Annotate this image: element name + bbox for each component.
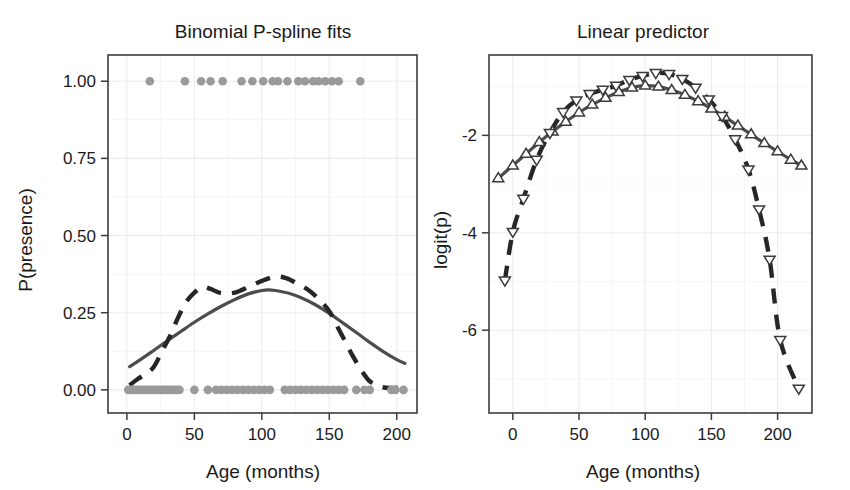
chart-panel-linear-predictor: Linear predictor -2-4-6 050100150200 Age… <box>425 0 850 490</box>
right-marker-layer <box>493 70 807 395</box>
observed-data-point <box>274 77 283 86</box>
observed-data-point <box>204 386 213 395</box>
x-tick-label: 200 <box>383 425 411 444</box>
observed-data-point <box>266 386 275 395</box>
observed-data-point <box>399 386 408 395</box>
marker-triangle-down <box>754 206 765 215</box>
marker-triangle-down <box>690 84 701 93</box>
y-tick-label: 0.75 <box>63 149 96 168</box>
marker-triangle-down <box>650 70 661 79</box>
y-tick-label: 1.00 <box>63 72 96 91</box>
left-panel-frame <box>108 55 417 413</box>
left-x-axis-title: Age (months) <box>206 461 320 482</box>
left-gridlines <box>108 55 417 413</box>
chart-panel-binomial-pspline-fits: Binomial P-spline fits 0.000.250.500.751… <box>0 0 425 490</box>
marker-triangle-down <box>531 156 542 165</box>
observed-data-point <box>218 77 227 86</box>
y-tick-label: -4 <box>462 224 477 243</box>
left-tick-marks <box>101 81 397 420</box>
observed-data-point <box>301 77 310 86</box>
observed-data-point <box>340 386 349 395</box>
x-tick-label: 100 <box>631 425 659 444</box>
observed-data-point <box>283 77 292 86</box>
right-x-axis-title: Age (months) <box>586 461 700 482</box>
left-panel-title: Binomial P-spline fits <box>175 21 351 42</box>
right-y-axis-title: logit(p) <box>430 211 451 269</box>
x-tick-label: 0 <box>508 425 517 444</box>
observed-data-point <box>181 77 190 86</box>
right-panel-svg: Linear predictor -2-4-6 050100150200 Age… <box>425 0 850 490</box>
x-tick-label: 50 <box>185 425 204 444</box>
marker-triangle-down <box>793 385 804 394</box>
series-curve-solid <box>498 86 801 179</box>
marker-triangle-down <box>764 256 775 265</box>
marker-triangle-down <box>558 109 569 118</box>
observed-data-point <box>356 77 365 86</box>
right-x-tick-labels: 050100150200 <box>508 425 792 444</box>
series-curve-solid <box>130 290 405 367</box>
observed-data-point <box>259 77 268 86</box>
right-tick-marks <box>482 135 778 420</box>
figure-root: Binomial P-spline fits 0.000.250.500.751… <box>0 0 850 490</box>
marker-triangle-down <box>775 337 786 346</box>
x-tick-label: 50 <box>570 425 589 444</box>
y-tick-label: 0.25 <box>63 304 96 323</box>
observed-data-point <box>391 386 400 395</box>
series-curve-dashed <box>130 276 405 388</box>
right-panel-frame <box>489 55 812 413</box>
right-y-tick-labels: -2-4-6 <box>462 126 477 340</box>
left-series-layer <box>130 276 405 388</box>
x-tick-label: 200 <box>763 425 791 444</box>
x-tick-label: 100 <box>248 425 276 444</box>
observed-data-point <box>248 77 257 86</box>
right-gridlines <box>489 55 812 413</box>
observed-data-point <box>334 77 343 86</box>
series-curve-dashed <box>505 73 799 389</box>
right-panel-title: Linear predictor <box>577 21 710 42</box>
left-panel-svg: Binomial P-spline fits 0.000.250.500.751… <box>0 0 425 490</box>
left-x-tick-labels: 050100150200 <box>122 425 411 444</box>
left-y-axis-title: P(presence) <box>15 188 36 292</box>
observed-data-point <box>197 77 206 86</box>
y-tick-label: 0.50 <box>63 227 96 246</box>
observed-data-point <box>352 386 361 395</box>
x-tick-label: 150 <box>697 425 725 444</box>
observed-data-point <box>206 77 215 86</box>
x-tick-label: 150 <box>315 425 343 444</box>
x-tick-label: 0 <box>122 425 131 444</box>
y-tick-label: -6 <box>462 321 477 340</box>
right-series-layer <box>498 73 801 389</box>
observed-data-point <box>237 77 246 86</box>
observed-data-point <box>365 386 374 395</box>
y-tick-label: -2 <box>462 126 477 145</box>
observed-data-point <box>190 386 199 395</box>
y-tick-label: 0.00 <box>63 381 96 400</box>
observed-data-point <box>146 77 155 86</box>
marker-triangle-down <box>518 195 529 204</box>
observed-data-point <box>175 386 184 395</box>
left-y-tick-labels: 0.000.250.500.751.00 <box>63 72 96 400</box>
